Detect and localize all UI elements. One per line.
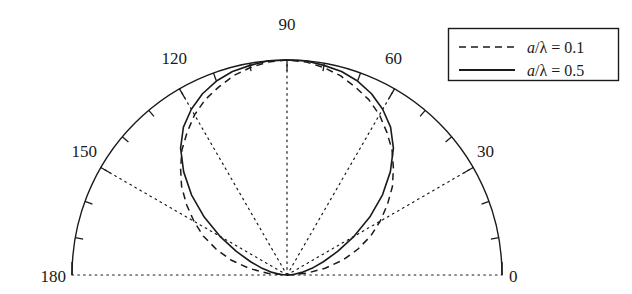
angle-label-180: 180 [41, 267, 67, 286]
angle-label-150: 150 [72, 142, 98, 161]
curve-a-lambda-0-1 [181, 60, 394, 275]
degree-tick-marks [75, 60, 498, 239]
grid-line-60 [287, 89, 395, 275]
tick-170 [75, 238, 83, 239]
legend-equals-2: = [551, 62, 560, 79]
outer-arc [72, 60, 502, 275]
radial-grid-lines [101, 60, 473, 275]
polar-plot-figure: 0 30 60 90 120 150 180 a/λ=0.1 a/λ=0.5 [0, 0, 632, 294]
polar-plot-canvas: 0 30 60 90 120 150 180 a/λ=0.1 a/λ=0.5 [0, 0, 632, 294]
angle-label-60: 60 [385, 49, 402, 68]
legend-label-2: a/λ=0.5 [527, 62, 584, 79]
angle-label-90: 90 [279, 15, 296, 34]
tick-70 [358, 73, 361, 81]
tick-120 [180, 89, 186, 99]
tick-110 [213, 73, 216, 81]
legend-label-1: a/λ=0.1 [527, 39, 584, 56]
legend-lambda-2: λ [539, 62, 547, 79]
angle-label-0: 0 [509, 267, 518, 286]
legend-var-2: a [527, 62, 535, 79]
legend-var-1: a [527, 39, 535, 56]
tick-160 [85, 201, 93, 204]
grid-line-120 [180, 89, 288, 275]
tick-30 [464, 168, 474, 174]
legend-value-1: 0.1 [564, 39, 584, 56]
tick-130 [149, 110, 154, 116]
angle-label-120: 120 [162, 49, 188, 68]
angle-label-30: 30 [477, 142, 494, 161]
tick-50 [420, 110, 425, 116]
tick-20 [482, 201, 490, 204]
legend-lambda-1: λ [539, 39, 547, 56]
tick-10 [491, 238, 499, 239]
legend-value-2: 0.5 [564, 62, 584, 79]
tick-150 [101, 168, 111, 174]
legend-equals-1: = [551, 39, 560, 56]
tick-60 [389, 89, 395, 99]
tick-140 [122, 137, 128, 142]
tick-40 [446, 137, 452, 142]
legend: a/λ=0.1 a/λ=0.5 [449, 29, 619, 81]
